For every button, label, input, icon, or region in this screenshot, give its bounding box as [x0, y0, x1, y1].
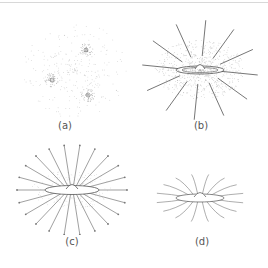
diffuse-cloud-illustration	[20, 15, 130, 125]
panel-a-label: (a)	[45, 120, 85, 131]
collapsing-disk-illustration	[140, 15, 260, 120]
disk-radial-arrows-illustration	[15, 140, 130, 235]
top-border-line	[0, 2, 268, 3]
panel-a	[20, 15, 130, 125]
panel-c-label: (c)	[52, 236, 92, 247]
panel-b	[140, 15, 260, 120]
disk-curved-fieldlines-illustration	[155, 170, 245, 225]
panel-c	[15, 140, 130, 235]
panel-b-label: (b)	[181, 120, 221, 131]
panel-d-label: (d)	[182, 236, 222, 247]
panel-d	[155, 170, 245, 225]
